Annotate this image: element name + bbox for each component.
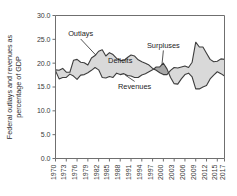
x-tick-label: 1988 bbox=[114, 164, 121, 180]
x-tick-label: 1976 bbox=[71, 164, 78, 180]
annotation-label-outlays: Outlays bbox=[68, 29, 93, 38]
annotation-label-revenues: Revenues bbox=[118, 82, 152, 91]
x-tick-label: 2015 bbox=[211, 164, 218, 180]
y-axis-title-line2: percentage of GDP bbox=[14, 56, 23, 118]
y-tick-label: 30.0 bbox=[37, 12, 51, 19]
annotation-label-deficits: Deficits bbox=[108, 56, 133, 65]
x-tick-label: 1985 bbox=[103, 164, 110, 180]
x-tick-label: 1973 bbox=[60, 164, 67, 180]
y-tick-label: 15.0 bbox=[37, 83, 51, 90]
x-tick-label: 1997 bbox=[147, 164, 154, 180]
x-tick-label: 2017 bbox=[219, 164, 226, 180]
x-tick-label: 1979 bbox=[82, 164, 89, 180]
x-tick-label: 1991 bbox=[125, 164, 132, 180]
y-tick-label: 10.0 bbox=[37, 107, 51, 114]
x-tick-label: 2000 bbox=[157, 164, 164, 180]
y-tick-label: 25.0 bbox=[37, 36, 51, 43]
federal-outlays-revenues-chart: 0.05.010.015.020.025.030.0 1970197319761… bbox=[0, 0, 237, 196]
y-tick-label: 20.0 bbox=[37, 60, 51, 67]
chart-container: 0.05.010.015.020.025.030.0 1970197319761… bbox=[0, 0, 237, 196]
x-tick-label: 2003 bbox=[168, 164, 175, 180]
annotation-label-surpluses: Surpluses bbox=[147, 41, 180, 50]
x-tick-label: 2009 bbox=[190, 164, 197, 180]
y-tick-label: 5.0 bbox=[41, 131, 51, 138]
x-tick-label: 1994 bbox=[136, 164, 143, 180]
x-tick-label: 1970 bbox=[50, 164, 57, 180]
y-axis-title-line1: Federal outlays and revenues as bbox=[5, 34, 14, 139]
y-tick-label: 0.0 bbox=[41, 155, 51, 162]
x-tick-label: 1982 bbox=[93, 164, 100, 180]
x-tick-label: 2006 bbox=[179, 164, 186, 180]
x-tick-label: 2012 bbox=[201, 164, 208, 180]
